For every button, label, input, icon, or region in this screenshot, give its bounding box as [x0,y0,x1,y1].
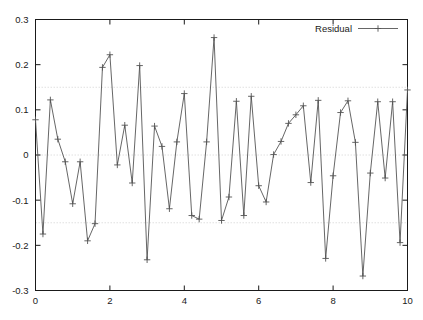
x-tick-label: 4 [182,295,187,306]
plot-background [0,0,423,320]
y-tick-label: 0.1 [15,104,28,115]
x-tick-label: 8 [330,295,335,306]
y-tick-label: 0.3 [15,14,28,25]
chart-screenshot: 0.30.20.10-0.1-0.2-0.3 0246810 Residual [0,0,423,320]
y-tick-label: -0.3 [12,285,28,296]
y-tick-label: 0 [23,149,28,160]
x-tick-label: 10 [402,295,413,306]
x-tick-label: 6 [256,295,261,306]
legend-label-residual: Residual [315,23,352,34]
y-tick-label: 0.2 [15,59,28,70]
y-tick-label: -0.1 [12,195,28,206]
x-tick-label: 2 [107,295,112,306]
residual-plot: 0.30.20.10-0.1-0.2-0.3 0246810 Residual [0,0,423,320]
y-tick-label: -0.2 [12,240,28,251]
x-tick-label: 0 [33,295,38,306]
